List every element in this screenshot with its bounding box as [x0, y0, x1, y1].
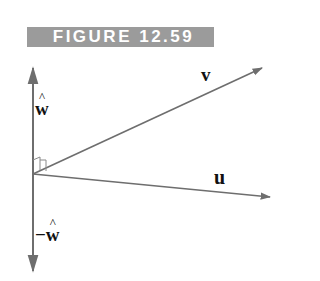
label-neg-w-hat: −w	[35, 224, 60, 246]
label-w-hat: w	[35, 98, 49, 120]
vector-u	[33, 174, 270, 197]
vector-v	[33, 68, 262, 174]
label-v: v	[201, 64, 211, 86]
minus-sign: −	[35, 224, 46, 245]
neg-w-hat-symbol: w	[46, 224, 60, 246]
w-hat-symbol: w	[35, 98, 49, 120]
label-u: u	[214, 166, 225, 189]
